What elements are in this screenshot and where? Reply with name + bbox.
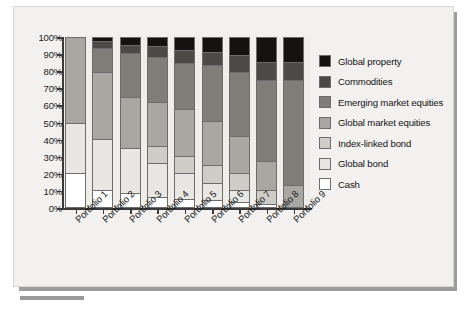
legend-label: Index-linked bond bbox=[338, 138, 411, 149]
y-axis-tick-mark bbox=[57, 174, 63, 176]
stacked-bar[interactable] bbox=[202, 37, 223, 208]
bar-segment[interactable] bbox=[284, 80, 303, 185]
x-axis-labels: Portfolio 1Portfolio 2Portfolio 3Portfol… bbox=[14, 211, 334, 283]
bar-segment[interactable] bbox=[175, 50, 194, 64]
legend-item[interactable]: Global bond bbox=[319, 154, 451, 175]
y-axis-tick-mark bbox=[57, 208, 63, 210]
y-axis-tick-mark bbox=[57, 105, 63, 107]
chart-figure: 100%90%80%70%60%50%40%30%20%10%0% Portfo… bbox=[0, 0, 469, 313]
legend-label: Global property bbox=[338, 56, 401, 67]
bar-segment[interactable] bbox=[121, 38, 140, 45]
bar-segment[interactable] bbox=[257, 62, 276, 81]
legend-item[interactable]: Emerging market equities bbox=[319, 92, 451, 113]
y-axis-labels: 100%90%80%70%60%50%40%30%20%10%0% bbox=[18, 37, 62, 209]
bar-segment[interactable] bbox=[93, 139, 112, 190]
bar-segment[interactable] bbox=[257, 38, 276, 62]
legend-swatch-icon bbox=[319, 55, 331, 67]
y-axis-tick-mark bbox=[57, 88, 63, 90]
bar-segment[interactable] bbox=[175, 38, 194, 50]
bar-segment[interactable] bbox=[121, 53, 140, 97]
y-axis-tick-mark bbox=[57, 140, 63, 142]
bar-segment[interactable] bbox=[257, 161, 276, 190]
stacked-bar[interactable] bbox=[65, 37, 86, 208]
legend-item[interactable]: Global property bbox=[319, 51, 451, 72]
bar-segment[interactable] bbox=[175, 156, 194, 173]
stacked-bar[interactable] bbox=[256, 37, 277, 208]
bar-segment[interactable] bbox=[175, 63, 194, 109]
bar-segment[interactable] bbox=[230, 38, 249, 55]
bar-segment[interactable] bbox=[66, 123, 85, 174]
bar-segment[interactable] bbox=[66, 38, 85, 123]
bar-segment[interactable] bbox=[121, 97, 140, 148]
x-axis-tick-mark bbox=[103, 209, 105, 214]
x-axis-tick-mark bbox=[157, 209, 159, 214]
legend-item[interactable]: Commodities bbox=[319, 72, 451, 93]
bar-segment[interactable] bbox=[66, 173, 85, 207]
stacked-bar[interactable] bbox=[174, 37, 195, 208]
chart-panel: 100%90%80%70%60%50%40%30%20%10%0% Portfo… bbox=[13, 6, 454, 287]
y-axis-tick-mark bbox=[57, 37, 63, 39]
legend-label: Commodities bbox=[338, 76, 392, 87]
legend-swatch-icon bbox=[319, 178, 331, 190]
bar-segment[interactable] bbox=[148, 102, 167, 146]
bar-segment[interactable] bbox=[230, 55, 249, 72]
bar-segment[interactable] bbox=[148, 38, 167, 46]
legend-label: Cash bbox=[338, 179, 360, 190]
bar-series-group bbox=[64, 37, 311, 208]
bar-segment[interactable] bbox=[121, 148, 140, 194]
footer-rule bbox=[20, 296, 84, 300]
stacked-bar[interactable] bbox=[120, 37, 141, 208]
bar-segment[interactable] bbox=[203, 65, 222, 121]
bar-segment[interactable] bbox=[148, 57, 167, 103]
stacked-bar[interactable] bbox=[92, 37, 113, 208]
bar-segment[interactable] bbox=[175, 109, 194, 156]
legend-label: Emerging market equities bbox=[338, 97, 443, 108]
bar-segment[interactable] bbox=[203, 52, 222, 66]
legend-swatch-icon bbox=[319, 76, 331, 88]
legend-item[interactable]: Cash bbox=[319, 174, 451, 195]
legend-swatch-icon bbox=[319, 137, 331, 149]
bar-segment[interactable] bbox=[148, 146, 167, 163]
y-axis-tick-mark bbox=[57, 54, 63, 56]
x-axis-tick-mark bbox=[185, 209, 187, 214]
x-axis-tick-mark bbox=[76, 209, 78, 214]
legend-swatch-icon bbox=[319, 96, 331, 108]
x-axis-tick-mark bbox=[267, 209, 269, 214]
y-axis-tick-mark bbox=[57, 71, 63, 73]
bar-segment[interactable] bbox=[93, 41, 112, 48]
bar-segment[interactable] bbox=[148, 46, 167, 56]
bar-segment[interactable] bbox=[284, 62, 303, 81]
legend-label: Global bond bbox=[338, 158, 388, 169]
legend-item[interactable]: Global market equities bbox=[319, 113, 451, 134]
bar-segment[interactable] bbox=[203, 165, 222, 184]
chart-legend: Global propertyCommoditiesEmerging marke… bbox=[319, 51, 451, 195]
legend-swatch-icon bbox=[319, 158, 331, 170]
bar-segment[interactable] bbox=[284, 38, 303, 62]
stacked-bar[interactable] bbox=[147, 37, 168, 208]
bar-segment[interactable] bbox=[203, 38, 222, 52]
stacked-bar[interactable] bbox=[229, 37, 250, 208]
bar-segment[interactable] bbox=[93, 48, 112, 72]
stacked-bar[interactable] bbox=[283, 37, 304, 208]
bar-segment[interactable] bbox=[257, 80, 276, 161]
y-axis-tick-mark bbox=[57, 123, 63, 125]
y-axis-tick-mark bbox=[57, 157, 63, 159]
bar-segment[interactable] bbox=[230, 136, 249, 173]
x-axis-tick-mark bbox=[294, 209, 296, 214]
legend-swatch-icon bbox=[319, 117, 331, 129]
bar-segment[interactable] bbox=[203, 121, 222, 165]
x-axis-tick-mark bbox=[130, 209, 132, 214]
x-axis-tick-mark bbox=[212, 209, 214, 214]
legend-item[interactable]: Index-linked bond bbox=[319, 133, 451, 154]
bar-segment[interactable] bbox=[93, 72, 112, 140]
y-axis-tick-mark bbox=[57, 191, 63, 193]
bar-segment[interactable] bbox=[230, 173, 249, 190]
bar-segment[interactable] bbox=[230, 72, 249, 136]
bar-segment[interactable] bbox=[121, 45, 140, 53]
x-axis-tick-mark bbox=[239, 209, 241, 214]
plot-wrapper: 100%90%80%70%60%50%40%30%20%10%0% Portfo… bbox=[14, 7, 455, 288]
legend-label: Global market equities bbox=[338, 117, 430, 128]
